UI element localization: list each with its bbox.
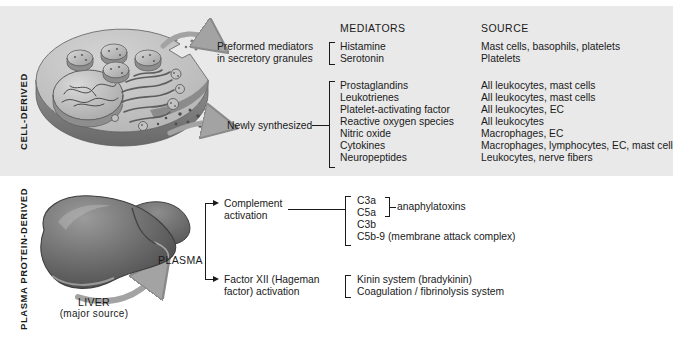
- group-label-complement-line1: Complement: [224, 198, 282, 210]
- group-label-factor-xii-line1: Factor XII (Hageman: [224, 274, 320, 286]
- plasma-branch-vertical-line: [205, 203, 206, 279]
- bracket-newly-synthesized: [329, 81, 335, 168]
- mediator-nitric-oxide: Nitric oxide: [340, 128, 391, 140]
- label-anaphylatoxins: anaphylatoxins: [397, 201, 466, 213]
- leader-anaphylatoxins: [390, 207, 396, 208]
- plasma-branch-bottom-arrowhead: [213, 276, 219, 282]
- leader-complement: [288, 209, 345, 210]
- source-nitric-oxide: Macrophages, EC: [481, 128, 563, 140]
- group-label-newly-synthesized: Newly synthesized: [227, 120, 312, 132]
- group-label-factor-xii-line2: factor) activation: [224, 286, 300, 298]
- group-label-complement-line2: activation: [224, 210, 268, 222]
- mediator-cytokines: Cytokines: [340, 140, 385, 152]
- mediator-prostaglandins: Prostaglandins: [340, 80, 408, 92]
- bracket-preformed: [329, 42, 335, 65]
- source-cytokines: Macrophages, lymphocytes, EC, mast cells: [481, 140, 673, 152]
- factor-xii-item-coagulation: Coagulation / fibrinolysis system: [357, 286, 504, 298]
- mediator-platelet-activating-factor: Platelet-activating factor: [340, 104, 450, 116]
- bracket-complement: [345, 196, 351, 246]
- complement-item-c3b: C3b: [357, 219, 376, 231]
- column-header-source: SOURCE: [481, 22, 529, 34]
- source-prostaglandins: All leukocytes, mast cells: [481, 80, 595, 92]
- liver-caption-title: LIVER: [44, 296, 144, 308]
- column-header-mediators: MEDIATORS: [340, 22, 406, 34]
- inflammatory-mediators-diagram: CELL-DERIVED PLASMA PROTEIN-DERIVED: [0, 0, 673, 345]
- mediator-neuropeptides: Neuropeptides: [340, 152, 407, 164]
- source-leukotrienes: All leukocytes, mast cells: [481, 92, 595, 104]
- complement-item-c5a: C5a: [357, 207, 376, 219]
- source-neuropeptides: Leukocytes, nerve fibers: [481, 152, 593, 164]
- liver-caption-subtitle: (major source): [34, 308, 154, 319]
- bracket-factor-xii: [345, 275, 351, 298]
- complement-item-c5b9: C5b-9 (membrane attack complex): [357, 231, 516, 243]
- mediator-leukotrienes: Leukotrienes: [340, 92, 399, 104]
- mediator-reactive-oxygen-species: Reactive oxygen species: [340, 116, 454, 128]
- group-label-preformed-line2: in secretory granules: [217, 53, 313, 65]
- factor-xii-item-kinin: Kinin system (bradykinin): [357, 274, 472, 286]
- source-serotonin: Platelets: [481, 53, 521, 65]
- source-platelet-activating-factor: All leukocytes, EC: [481, 104, 564, 116]
- complement-item-c3a: C3a: [357, 195, 376, 207]
- mediator-serotonin: Serotonin: [340, 53, 384, 65]
- source-histamine: Mast cells, basophils, platelets: [481, 41, 620, 53]
- group-label-preformed-line1: Preformed mediators: [217, 41, 313, 53]
- leader-newly-synthesized: [312, 125, 329, 126]
- mediator-histamine: Histamine: [340, 41, 386, 53]
- plasma-branch-top-arrowhead: [213, 200, 219, 206]
- plasma-label: PLASMA: [158, 254, 203, 266]
- source-reactive-oxygen-species: All leukocytes: [481, 116, 544, 128]
